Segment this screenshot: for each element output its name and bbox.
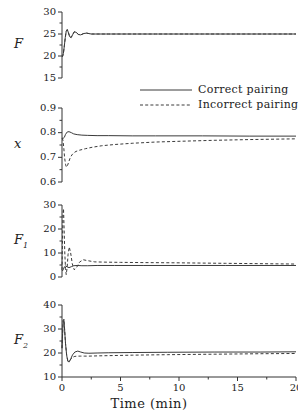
y-tick-label: 0.7 <box>14 151 56 162</box>
figure-container: 15202530F0.60.70.80.9x0102030F110203040F… <box>0 0 298 413</box>
y-tick-label: 15 <box>14 72 56 83</box>
x-tick-label: 5 <box>101 382 141 393</box>
y-tick-label: 0.6 <box>14 176 56 187</box>
series-correct-pairing <box>62 132 296 139</box>
y-axis-label-subscript: 1 <box>23 241 28 250</box>
legend-label-incorrect-pairing: Incorrect pairing <box>198 98 298 111</box>
series-incorrect-pairing <box>62 319 296 361</box>
y-axis-label-text: x <box>14 136 21 151</box>
x-tick-label: 15 <box>218 382 258 393</box>
y-axis-label-text: F <box>14 36 23 51</box>
series-correct-pairing <box>62 319 296 361</box>
y-axis-label-subscript: 2 <box>23 341 28 350</box>
x-tick-label: 0 <box>42 382 82 393</box>
x-axis-title: Time (min) <box>0 396 298 411</box>
y-tick-label: 30 <box>14 6 56 17</box>
y-axis-label: x <box>14 136 21 151</box>
y-tick-label: 30 <box>14 199 56 210</box>
x-tick-label: 10 <box>159 382 199 393</box>
y-axis-label-text: F <box>14 332 23 347</box>
y-tick-label: 20 <box>14 50 56 61</box>
y-tick-label: 10 <box>14 371 56 382</box>
series-correct-pairing <box>62 265 296 270</box>
y-tick-label: 0.9 <box>14 102 56 113</box>
series-incorrect-pairing <box>62 138 296 167</box>
legend-label-correct-pairing: Correct pairing <box>198 83 289 96</box>
y-axis-label: F2 <box>14 332 28 350</box>
y-tick-label: 40 <box>14 299 56 310</box>
y-axis-label: F <box>14 36 23 51</box>
y-tick-label: 0 <box>14 271 56 282</box>
series-incorrect-pairing <box>62 209 296 275</box>
y-axis-label-text: F <box>14 232 23 247</box>
y-axis-label: F1 <box>14 232 28 250</box>
x-tick-label: 20 <box>276 382 298 393</box>
